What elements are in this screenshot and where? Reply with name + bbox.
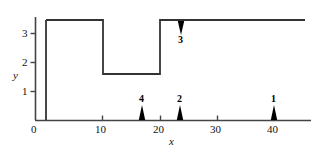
x-tick-label-20: 20	[153, 124, 164, 135]
figure-canvas: 3 2 1 0 10 20 30 40 y x 4 2 1 3	[0, 0, 323, 155]
x-tick-label-30: 30	[210, 124, 221, 135]
marker-arrow-4	[139, 105, 145, 120]
step-curve	[46, 20, 305, 74]
y-tick-label-3: 3	[22, 28, 28, 39]
y-tick-label-2: 2	[22, 57, 28, 68]
x-tick-label-0: 0	[31, 124, 37, 135]
y-axis-label: y	[13, 70, 18, 81]
y-tick-label-1: 1	[22, 86, 28, 97]
x-tick-label-40: 40	[267, 124, 278, 135]
annotation-label-2: 2	[177, 94, 182, 104]
annotation-label-3: 3	[178, 35, 183, 45]
marker-arrow-2	[177, 105, 183, 120]
marker-arrow-3	[178, 21, 184, 35]
annotation-label-1: 1	[271, 94, 276, 104]
x-tick-label-10: 10	[95, 124, 106, 135]
marker-arrow-1	[271, 105, 277, 120]
x-axis-label: x	[169, 136, 174, 147]
annotation-label-4: 4	[139, 94, 144, 104]
